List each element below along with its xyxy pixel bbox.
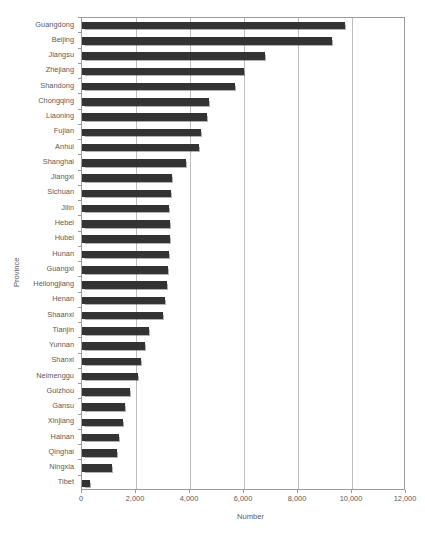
y-axis-label-beijing: Beijing <box>52 36 74 44</box>
y-axis-tick <box>78 124 81 125</box>
bar-row <box>82 18 404 33</box>
x-axis-tick <box>351 490 352 493</box>
bar-chongqing[interactable] <box>82 98 209 106</box>
y-axis-label-zhejiang: Zhejiang <box>46 66 74 74</box>
x-axis-label-6000: 6,000 <box>234 494 253 503</box>
x-axis-label-4000: 4,000 <box>180 494 199 503</box>
y-axis-label-yunnan: Yunnan <box>49 341 74 349</box>
y-axis-tick <box>78 459 81 460</box>
y-axis-tick <box>78 185 81 186</box>
bar-row <box>82 155 404 170</box>
y-axis-label-shanghai: Shanghai <box>43 158 74 166</box>
bar-row <box>82 186 404 201</box>
y-axis-tick <box>78 398 81 399</box>
y-axis-tick <box>78 215 81 216</box>
x-axis-tick <box>135 490 136 493</box>
bar-sichuan[interactable] <box>82 190 171 198</box>
bar-guangdong[interactable] <box>82 22 345 30</box>
bar-hebei[interactable] <box>82 220 170 228</box>
bar-shandong[interactable] <box>82 83 235 91</box>
bar-shaanxi[interactable] <box>82 312 163 320</box>
bar-row <box>82 232 404 247</box>
y-axis-label-liaoning: Liaoning <box>46 112 74 120</box>
x-axis-labels: 02,0004,0006,0008,00010,00012,000 <box>0 494 425 508</box>
y-axis-label-hebei: Hebei <box>55 219 74 227</box>
bar-jilin[interactable] <box>82 205 169 213</box>
bar-row <box>82 94 404 109</box>
bar-tibet[interactable] <box>82 480 90 488</box>
bar-hainan[interactable] <box>82 434 119 442</box>
bar-row <box>82 323 404 338</box>
y-axis-tick <box>78 444 81 445</box>
y-axis-label-shanxi: Shanxi <box>51 356 74 364</box>
bar-row <box>82 79 404 94</box>
bar-tianjin[interactable] <box>82 327 149 335</box>
bar-row <box>82 125 404 140</box>
y-axis-label-neimenggu: Neimenggu <box>36 372 74 380</box>
bar-jiangxi[interactable] <box>82 174 172 182</box>
bar-liaoning[interactable] <box>82 113 207 121</box>
bar-shanghai[interactable] <box>82 159 186 167</box>
bar-row <box>82 171 404 186</box>
y-axis-label-shandong: Shandong <box>40 82 74 90</box>
plot-area <box>81 17 405 490</box>
y-axis-tick <box>78 17 81 18</box>
bar-row <box>82 476 404 491</box>
bar-heilongjiang[interactable] <box>82 281 167 289</box>
y-axis-tick <box>78 292 81 293</box>
bar-gansu[interactable] <box>82 403 125 411</box>
bar-anhui[interactable] <box>82 144 199 152</box>
bar-row <box>82 277 404 292</box>
y-axis-label-tianjin: Tianjin <box>53 326 75 334</box>
bar-jiangsu[interactable] <box>82 52 265 60</box>
bar-guangxi[interactable] <box>82 266 168 274</box>
bar-hunan[interactable] <box>82 251 169 259</box>
bar-yunnan[interactable] <box>82 342 145 350</box>
bar-row <box>82 369 404 384</box>
y-axis-title: Province <box>12 232 28 312</box>
bar-row <box>82 430 404 445</box>
x-axis-tick <box>297 490 298 493</box>
bar-row <box>82 384 404 399</box>
x-axis-title: Number <box>0 512 425 521</box>
bar-zhejiang[interactable] <box>82 68 244 76</box>
bar-chart: GuangdongBeijingJiangsuZhejiangShandongC… <box>0 0 425 554</box>
x-axis-label-0: 0 <box>79 494 83 503</box>
x-axis-tick <box>81 490 82 493</box>
bar-shanxi[interactable] <box>82 358 141 366</box>
y-axis-label-anhui: Anhui <box>55 143 74 151</box>
bar-qinghai[interactable] <box>82 449 117 457</box>
cropped-header-strip <box>0 0 425 7</box>
bar-row <box>82 415 404 430</box>
bar-row <box>82 399 404 414</box>
bar-row <box>82 354 404 369</box>
bar-ningxia[interactable] <box>82 464 112 472</box>
y-axis-tick <box>78 337 81 338</box>
bar-beijing[interactable] <box>82 37 332 45</box>
y-axis-tick <box>78 139 81 140</box>
y-axis-tick <box>78 429 81 430</box>
y-axis-label-hubei: Hubei <box>55 234 74 242</box>
y-axis-label-xinjiang: Xinjiang <box>48 417 74 425</box>
y-axis-label-guangxi: Guangxi <box>46 265 74 273</box>
bar-row <box>82 216 404 231</box>
bar-fujian[interactable] <box>82 129 201 137</box>
bar-henan[interactable] <box>82 297 165 305</box>
y-axis-tick <box>78 414 81 415</box>
x-axis-label-8000: 8,000 <box>288 494 307 503</box>
bar-row <box>82 293 404 308</box>
bar-neimenggu[interactable] <box>82 373 138 381</box>
bar-row <box>82 460 404 475</box>
bar-guizhou[interactable] <box>82 388 130 396</box>
y-axis-tick <box>78 475 81 476</box>
y-axis-label-sichuan: Sichuan <box>47 188 74 196</box>
bar-row <box>82 445 404 460</box>
bar-hubei[interactable] <box>82 235 170 243</box>
bar-row <box>82 201 404 216</box>
x-axis-label-2000: 2,000 <box>126 494 145 503</box>
bar-row <box>82 308 404 323</box>
bar-xinjiang[interactable] <box>82 419 123 427</box>
y-axis-tick <box>78 246 81 247</box>
bar-row <box>82 33 404 48</box>
y-axis-label-tibet: Tibet <box>58 478 74 486</box>
